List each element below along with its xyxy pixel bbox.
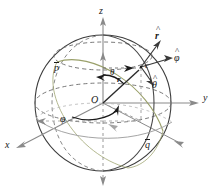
x-axis — [22, 103, 103, 145]
origin-label: O — [91, 95, 98, 105]
phi-hat-label: ^ φ — [174, 53, 180, 63]
axis-label-x: x — [5, 140, 9, 150]
angle-phi-arrowhead — [113, 105, 119, 116]
xy-plane-ellipse-back — [36, 103, 172, 122]
angle-phi-label: φ — [60, 114, 66, 124]
r-hat-label: ^ r — [155, 31, 159, 41]
x-axis-negative-arrowhead — [174, 141, 184, 148]
angle-phi-arc — [72, 110, 117, 120]
circle-p-label: p — [54, 62, 59, 73]
circle-q-label: q — [145, 139, 150, 150]
r-hat-vector — [141, 44, 158, 67]
angle-theta-label: θ — [110, 68, 114, 77]
point-c-marker — [140, 66, 142, 68]
spherical-coordinate-figure — [0, 0, 219, 192]
phi-hat-caret: ^ — [175, 47, 179, 56]
x-axis-arrowhead — [16, 141, 26, 148]
angle-theta-arrowhead — [96, 74, 106, 81]
axis-label-z: z — [99, 6, 103, 16]
xy-plane-arrowhead — [108, 124, 118, 132]
projection-origin-to-xy — [103, 103, 141, 121]
theta-hat-label: ^ θ — [152, 80, 157, 90]
point-c-label: c — [145, 62, 149, 70]
r-hat-caret: ^ — [156, 25, 160, 34]
circle-p-text: p — [54, 62, 59, 73]
position-vector-label: r — [117, 75, 121, 84]
x-axis-negative — [103, 103, 178, 142]
theta-hat-caret: ^ — [153, 74, 157, 83]
circle-q-text: q — [145, 139, 150, 150]
phi-hat-arrowhead — [164, 55, 173, 62]
axis-label-y: y — [203, 93, 207, 103]
